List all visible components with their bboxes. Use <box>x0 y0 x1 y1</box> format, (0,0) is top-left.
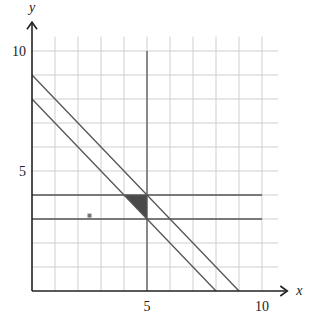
x-axis-label: x <box>295 283 303 298</box>
y-tick-label: 5 <box>19 164 26 179</box>
x-tick-label: 5 <box>144 299 151 314</box>
constraint-line <box>32 75 239 291</box>
y-tick-label: 10 <box>12 44 26 59</box>
x-tick-label: 10 <box>255 299 269 314</box>
y-axis-label: y <box>27 0 36 15</box>
coordinate-plot: 510510xy <box>0 0 311 322</box>
data-point <box>88 214 92 218</box>
